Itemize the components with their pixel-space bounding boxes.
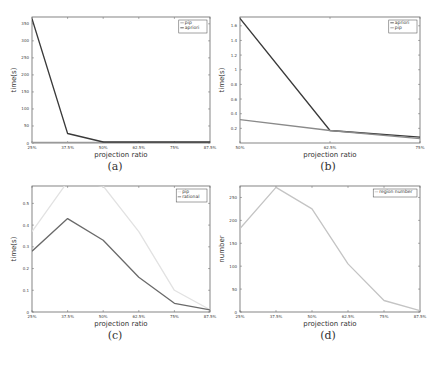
legend: aprioripip (389, 20, 417, 33)
caption-b: (b) (308, 160, 348, 173)
x-axis-label: projection ratio (303, 151, 356, 159)
y-tick-label: 200 (21, 72, 29, 77)
plot-frame (240, 17, 420, 143)
x-tick-label: 75% (170, 314, 179, 319)
x-axis-label: projection ratio (94, 320, 147, 328)
legend: pipapriori (179, 20, 207, 33)
x-tick-label: 37.5% (61, 314, 74, 319)
chart-d: 05010015020025025%37.5%50%62.5%75%87.5%p… (218, 180, 437, 330)
y-tick-label: 150 (21, 89, 29, 94)
legend: region number (373, 189, 417, 197)
y-tick-label: 0.2 (23, 266, 30, 271)
legend-entry: pip (395, 25, 402, 30)
y-axis-label: number (218, 235, 226, 262)
y-tick-label: 0.4 (23, 223, 30, 228)
caption-a: (a) (95, 160, 135, 173)
chart-svg-c: 00.10.20.30.40.525%37.5%50%62.5%75%87.5%… (0, 180, 220, 330)
y-tick-label: 0.8 (231, 82, 238, 87)
y-tick-label: 50 (24, 123, 30, 128)
y-tick-label: 0.3 (23, 244, 30, 249)
y-tick-label: 100 (21, 106, 29, 111)
x-tick-label: 25% (236, 314, 245, 319)
x-tick-label: 25% (28, 145, 37, 150)
chart-a: 05010015020025030035025%37.5%50%62.5%75%… (0, 0, 220, 160)
y-tick-label: 1.2 (231, 53, 238, 58)
y-tick-label: 0.1 (23, 288, 30, 293)
x-tick-label: 87.5% (414, 314, 427, 319)
chart-svg-b: 0.20.40.60.811.21.41.650%62.5%75%project… (218, 0, 437, 160)
y-tick-label: 0.2 (231, 126, 238, 131)
y-tick-label: 100 (229, 264, 237, 269)
x-tick-label: 75% (416, 145, 425, 150)
chart-b: 0.20.40.60.811.21.41.650%62.5%75%project… (218, 0, 437, 160)
x-tick-label: 37.5% (61, 145, 74, 150)
legend-entry: rational (182, 194, 199, 199)
y-tick-label: 1.6 (231, 23, 238, 28)
legend-entry: apriori (185, 25, 200, 30)
y-axis-label: time(s) (10, 236, 18, 261)
x-tick-label: 62.5% (324, 145, 337, 150)
chart-svg-d: 05010015020025025%37.5%50%62.5%75%87.5%p… (218, 180, 437, 330)
x-tick-label: 75% (170, 145, 179, 150)
legend: piprational (176, 189, 207, 202)
x-tick-label: 62.5% (132, 314, 145, 319)
x-tick-label: 50% (99, 145, 108, 150)
x-tick-label: 62.5% (342, 314, 355, 319)
legend-entry: region number (379, 189, 412, 194)
y-tick-label: 250 (21, 55, 29, 60)
x-tick-label: 62.5% (132, 145, 145, 150)
x-tick-label: 50% (308, 314, 317, 319)
chart-c: 00.10.20.30.40.525%37.5%50%62.5%75%87.5%… (0, 180, 220, 330)
x-tick-label: 75% (380, 314, 389, 319)
x-tick-label: 37.5% (270, 314, 283, 319)
y-tick-label: 350 (21, 21, 29, 26)
chart-svg-a: 05010015020025030035025%37.5%50%62.5%75%… (0, 0, 220, 160)
x-tick-label: 25% (28, 314, 37, 319)
caption-d: (d) (308, 329, 348, 342)
y-tick-label: 200 (229, 218, 237, 223)
y-axis-label: time(s) (218, 67, 226, 92)
plot-frame (32, 17, 210, 143)
y-tick-label: 0.6 (231, 97, 238, 102)
plot-frame (32, 186, 210, 312)
y-axis-label: time(s) (10, 67, 18, 92)
y-tick-label: 150 (229, 241, 237, 246)
y-tick-label: 50 (232, 287, 238, 292)
y-tick-label: 0.4 (231, 111, 238, 116)
x-axis-label: projection ratio (94, 151, 147, 159)
caption-c: (c) (95, 329, 135, 342)
x-axis-label: projection ratio (303, 320, 356, 328)
x-tick-label: 87.5% (204, 145, 217, 150)
plot-frame (240, 186, 420, 312)
y-tick-label: 300 (21, 38, 29, 43)
y-tick-label: 0.5 (23, 201, 30, 206)
x-tick-label: 87.5% (204, 314, 217, 319)
y-tick-label: 1.4 (231, 38, 238, 43)
y-tick-label: 250 (229, 195, 237, 200)
y-tick-label: 1 (234, 67, 237, 72)
x-tick-label: 50% (99, 314, 108, 319)
x-tick-label: 50% (236, 145, 245, 150)
